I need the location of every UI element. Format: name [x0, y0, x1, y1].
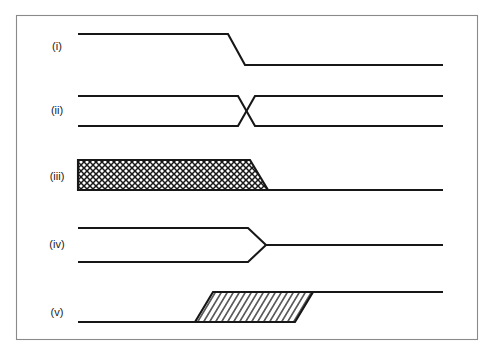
- row-i-group: (i): [52, 34, 443, 65]
- line-diagram: (i) (ii) (iii) (iv) (v): [0, 0, 496, 355]
- row-iii-crosshatch-region: [78, 160, 268, 190]
- row-v-group: (v): [51, 292, 443, 322]
- figure-container: (i) (ii) (iii) (iv) (v): [0, 0, 496, 355]
- row-ii-group: (ii): [51, 96, 443, 126]
- row-iv-lower-converging-line: [78, 245, 266, 262]
- row-ii-label: (ii): [51, 104, 63, 116]
- row-iii-label: (iii): [50, 170, 65, 182]
- row-v-diagonal-hatch-region: [195, 292, 313, 322]
- row-ii-upper-crossing-line: [78, 96, 443, 126]
- row-i-label: (i): [52, 40, 62, 52]
- row-iv-label: (iv): [49, 238, 64, 250]
- row-ii-lower-crossing-line: [78, 96, 443, 126]
- row-iii-group: (iii): [50, 160, 443, 190]
- row-iv-upper-converging-line: [78, 228, 443, 245]
- row-iv-group: (iv): [49, 228, 443, 262]
- row-i-step-down-line: [78, 34, 443, 65]
- row-v-label: (v): [51, 306, 64, 318]
